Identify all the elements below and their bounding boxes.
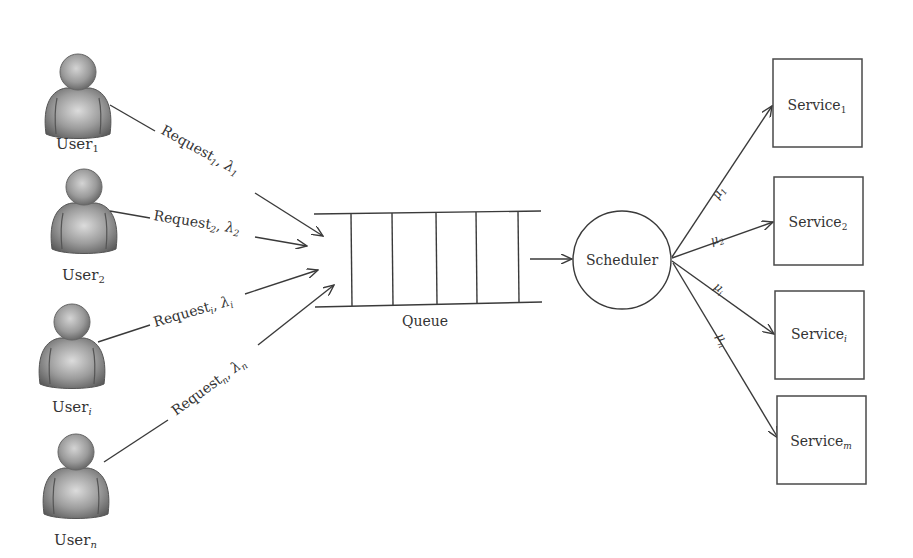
queue: Queue [314,211,542,329]
queueing-diagram: User1 User2 Useri Usern Request1, λ1 Req… [0,0,913,558]
request-arrow-2: Request2, λ2 [110,207,307,246]
queue-label: Queue [402,313,448,329]
user-icon [51,169,117,254]
user-n: Usern [43,434,109,550]
service-m: Servicem [777,396,866,484]
user-2-label: User2 [62,266,105,285]
request-i-label: Requesti, λi [151,292,234,332]
request-arrow-i: Requesti, λi [98,270,318,342]
queue-slot-divider [392,213,393,305]
user-i: Useri [39,304,105,417]
service-1-label: Service1 [788,97,847,115]
user-icon [45,54,111,139]
user-1-label: User1 [56,135,99,154]
mu-2-label: μ2 [708,230,725,249]
request-1-label: Request1, λ1 [158,122,243,180]
service-i-label: Servicei [791,326,847,344]
queue-slot-divider [476,212,477,303]
request-n-label: Requestn, λn [168,354,249,420]
service-arrow-2: μ2 [672,222,773,258]
queue-slot-divider [436,213,437,304]
scheduler: Scheduler [573,211,671,309]
user-i-label: Useri [52,398,92,417]
queue-slot-divider [351,214,352,306]
service-2-label: Service2 [789,214,848,232]
service-i: Servicei [775,291,864,379]
queue-slot-divider [518,212,519,302]
request-2-label: Request2, λ2 [152,207,241,238]
user-1: User1 [45,54,111,154]
user-icon [43,434,109,519]
user-icon [39,304,105,389]
mu-i-label: μi [710,279,728,298]
scheduler-label: Scheduler [586,252,658,268]
service-1: Service1 [773,59,862,147]
service-arrow-1: μ1 [672,106,772,257]
service-arrow-i: μi [672,261,774,334]
service-2: Service2 [774,177,863,265]
user-2: User2 [51,169,117,285]
service-m-label: Servicem [790,433,852,451]
service-arrow-m: μn [673,263,778,438]
user-n-label: Usern [54,531,97,550]
